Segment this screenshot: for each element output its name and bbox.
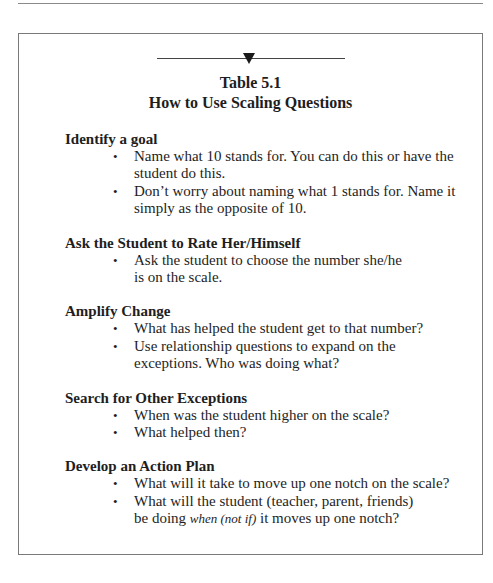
list-item: •Don’t worry about naming what 1 stands …: [65, 183, 465, 218]
emphasis: when (not if): [190, 511, 256, 526]
table-box: Table 5.1 How to Use Scaling Questions I…: [18, 33, 483, 555]
section-action-plan: Develop an Action Plan •What will it tak…: [65, 457, 465, 527]
table-title: How to Use Scaling Questions: [19, 93, 482, 113]
table-number: Table 5.1: [19, 73, 482, 93]
bullet-icon: •: [113, 475, 118, 492]
list-item: •What has helped the student get to that…: [65, 320, 465, 337]
page-top-rule: [18, 3, 483, 4]
list-item: •What will it take to move up one notch …: [65, 475, 465, 492]
table-heading: Table 5.1 How to Use Scaling Questions: [19, 73, 482, 113]
list-item: •Use relationship questions to expand on…: [65, 338, 465, 373]
section-rate-self: Ask the Student to Rate Her/Himself •Ask…: [65, 234, 465, 287]
section-identify-goal: Identify a goal •Name what 10 stands for…: [65, 130, 465, 218]
list-item: •Ask the student to choose the number sh…: [65, 252, 465, 287]
bullet-icon: •: [113, 183, 118, 200]
list-item: •When was the student higher on the scal…: [65, 407, 465, 424]
section-other-exceptions: Search for Other Exceptions •When was th…: [65, 389, 465, 442]
list-item: •What helped then?: [65, 424, 465, 441]
bullet-list: •What has helped the student get to that…: [65, 320, 465, 372]
bullet-icon: •: [113, 320, 118, 337]
bullet-icon: •: [113, 493, 118, 510]
title-ornament: [157, 53, 345, 65]
list-item: •What will the student (teacher, parent,…: [65, 493, 465, 528]
section-heading: Amplify Change: [65, 302, 465, 320]
bullet-icon: •: [113, 148, 118, 165]
bullet-list: •What will it take to move up one notch …: [65, 475, 465, 527]
bullet-icon: •: [113, 338, 118, 355]
list-item: •Name what 10 stands for. You can do thi…: [65, 148, 465, 183]
section-heading: Develop an Action Plan: [65, 457, 465, 475]
section-heading: Search for Other Exceptions: [65, 389, 465, 407]
section-heading: Ask the Student to Rate Her/Himself: [65, 234, 465, 252]
section-heading: Identify a goal: [65, 130, 465, 148]
bullet-icon: •: [113, 407, 118, 424]
bullet-list: •Ask the student to choose the number sh…: [65, 252, 465, 287]
bullet-icon: •: [113, 424, 118, 441]
section-amplify-change: Amplify Change •What has helped the stud…: [65, 302, 465, 372]
triangle-down-icon: [243, 53, 255, 64]
bullet-list: •When was the student higher on the scal…: [65, 407, 465, 442]
bullet-icon: •: [113, 252, 118, 269]
bullet-list: •Name what 10 stands for. You can do thi…: [65, 148, 465, 218]
table-content: Identify a goal •Name what 10 stands for…: [65, 130, 465, 544]
